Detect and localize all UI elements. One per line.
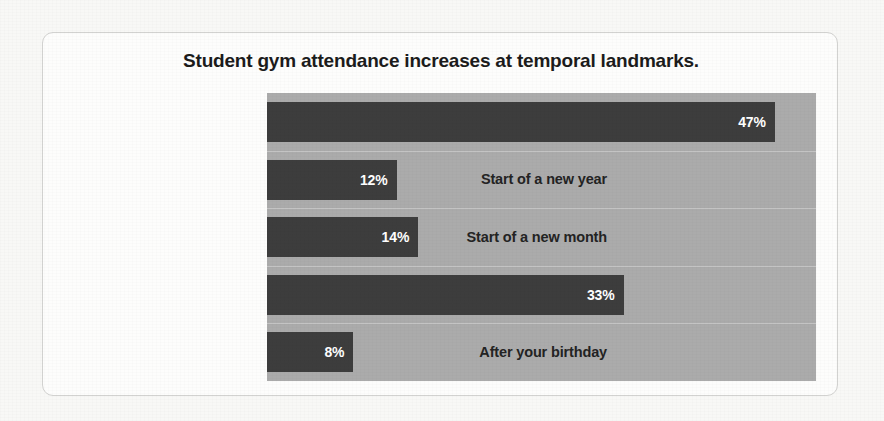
chart-row: Start of a new semester 47% [43,93,839,151]
bar: 8% [267,332,353,372]
bar: 12% [267,160,397,200]
bar: 33% [267,275,624,315]
bar: 47% [267,102,775,142]
bar-value-label: 47% [738,114,766,130]
chart-title: Student gym attendance increases at temp… [43,50,839,72]
chart-row: After your birthday 8% [43,323,839,381]
chart-row: Start of a new week 33% [43,266,839,324]
bar-value-label: 12% [360,172,388,188]
chart-card: Student gym attendance increases at temp… [42,32,838,396]
bar-value-label: 33% [587,287,615,303]
chart-row: Start of a new month 14% [43,208,839,266]
chart-row: Start of a new year 12% [43,151,839,209]
bar-value-label: 14% [382,229,410,245]
bar: 14% [267,217,418,257]
bar-value-label: 8% [324,344,344,360]
